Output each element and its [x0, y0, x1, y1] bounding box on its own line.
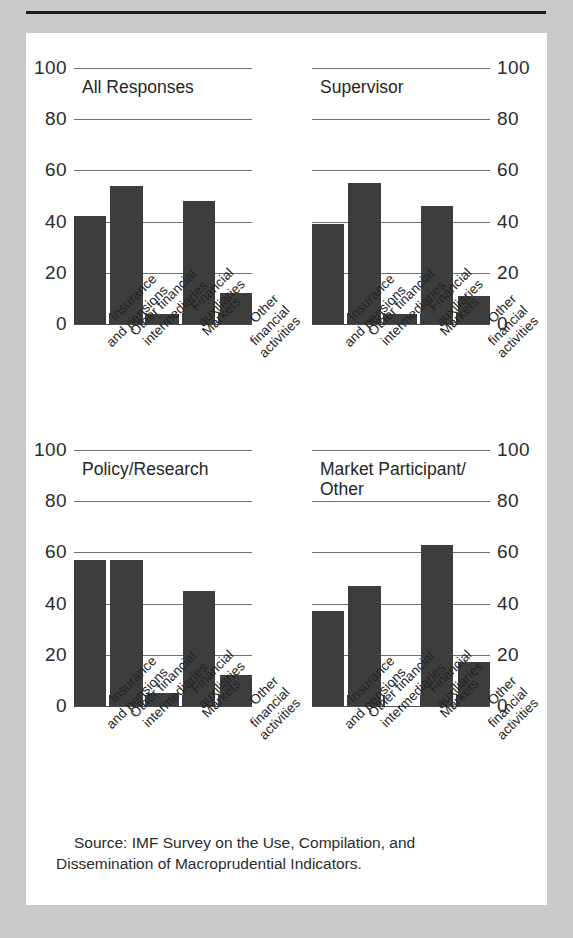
y-tick-label-40: 40: [45, 594, 67, 613]
y-tick-label-0: 0: [56, 314, 67, 333]
figure-panel: All Responses 020406080100 Insurance and…: [26, 33, 547, 905]
y-tick-label-80: 80: [497, 109, 519, 128]
top-rule: [26, 11, 546, 14]
y-tick-label-60: 60: [45, 160, 67, 179]
chart-panel-market-participant-other: Market Participant/ Other 020406080100 I…: [284, 415, 544, 810]
y-tick-label-60: 60: [497, 542, 519, 561]
bar-slot: [312, 68, 344, 324]
source-note: Source: IMF Survey on the Use, Compilati…: [56, 833, 516, 875]
x-axis-labels-2: Insurance and pensionsOther financial in…: [74, 706, 252, 806]
x-axis-labels-3: Insurance and pensionsOther financial in…: [312, 706, 490, 806]
plot-area-1: Supervisor 020406080100 Insurance and pe…: [312, 68, 490, 324]
y-tick-label-100: 100: [34, 58, 67, 77]
y-tick-label-20: 20: [45, 645, 67, 664]
plot-area-0: All Responses 020406080100 Insurance and…: [74, 68, 252, 324]
y-tick-label-20: 20: [497, 263, 519, 282]
bar: [74, 216, 106, 324]
y-tick-label-60: 60: [45, 542, 67, 561]
bar-slot: [312, 450, 344, 706]
y-tick-label-100: 100: [497, 440, 530, 459]
chart-panel-all-responses: All Responses 020406080100 Insurance and…: [26, 33, 286, 428]
y-tick-label-80: 80: [45, 109, 67, 128]
bar: [74, 560, 106, 706]
y-tick-label-20: 20: [45, 263, 67, 282]
y-tick-label-100: 100: [497, 58, 530, 77]
y-tick-label-40: 40: [497, 594, 519, 613]
plot-area-2: Policy/Research 020406080100 Insurance a…: [74, 450, 252, 706]
chart-panel-supervisor: Supervisor 020406080100 Insurance and pe…: [284, 33, 544, 428]
bar-slot: [74, 450, 106, 706]
y-tick-label-60: 60: [497, 160, 519, 179]
figure-page: All Responses 020406080100 Insurance and…: [0, 0, 573, 938]
y-tick-label-80: 80: [497, 491, 519, 510]
x-axis-labels-1: Insurance and pensionsOther financial in…: [312, 324, 490, 424]
x-axis-labels-0: Insurance and pensionsOther financial in…: [74, 324, 252, 424]
bar: [312, 224, 344, 324]
y-tick-label-0: 0: [56, 696, 67, 715]
y-tick-label-40: 40: [45, 212, 67, 231]
y-tick-label-100: 100: [34, 440, 67, 459]
y-tick-label-40: 40: [497, 212, 519, 231]
y-tick-label-20: 20: [497, 645, 519, 664]
chart-grid: All Responses 020406080100 Insurance and…: [26, 33, 547, 823]
bar-slot: [74, 68, 106, 324]
plot-area-3: Market Participant/ Other 020406080100 I…: [312, 450, 490, 706]
y-tick-label-80: 80: [45, 491, 67, 510]
chart-panel-policy-research: Policy/Research 020406080100 Insurance a…: [26, 415, 286, 810]
bar: [312, 611, 344, 706]
